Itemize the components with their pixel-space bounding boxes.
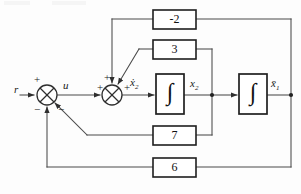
sum2-sign-plus-right: + <box>124 82 130 93</box>
sum2-sign-plus-top: + <box>104 72 110 83</box>
sum1-sign-minus-right: − <box>58 104 64 115</box>
figure-canvas: -2 3 7 6 ∫ ∫ r u ẋ2 x2 x̄1 + − − + + + <box>0 0 301 194</box>
signal-label-x1-sub: 1 <box>276 84 280 92</box>
gain-block-3-value: 3 <box>153 43 196 55</box>
signal-label-x1: x̄1 <box>271 78 279 92</box>
signal-label-r: r <box>14 84 18 95</box>
signal-label-x2-dot-sub: 2 <box>135 83 139 91</box>
integrator-block-1-symbol: ∫ <box>156 80 184 104</box>
branch-node-x1 <box>289 93 293 97</box>
left-summing-junction <box>37 85 57 105</box>
branch-node-x2 <box>210 93 214 97</box>
sum2-sign-plus-left: + <box>97 82 103 93</box>
gain-block-6-value: 6 <box>153 161 196 173</box>
sum1-sign-minus-left: − <box>34 104 40 115</box>
signal-label-u: u <box>63 80 69 91</box>
signal-label-x2: x2 <box>190 78 198 92</box>
sum1-sign-plus: + <box>34 74 40 85</box>
gain-block-7-value: 7 <box>153 129 196 141</box>
signal-label-x2-dot: ẋ2 <box>130 77 138 91</box>
gain-block-minus-2-value: -2 <box>153 13 196 25</box>
right-summing-junction <box>102 85 122 105</box>
integrator-block-2-symbol: ∫ <box>239 80 267 104</box>
signal-label-x2-sub: 2 <box>195 84 199 92</box>
